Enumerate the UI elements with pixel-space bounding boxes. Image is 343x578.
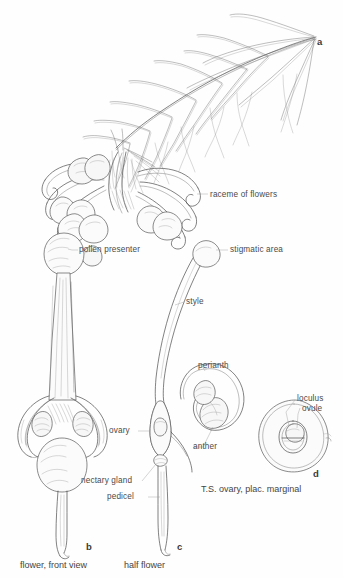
label-style: style bbox=[186, 297, 204, 306]
label-nectary-gland: nectary gland bbox=[81, 476, 132, 485]
label-anther: anther bbox=[193, 442, 217, 451]
botanical-plate: raceme of flowers pollen presenter stigm… bbox=[0, 0, 343, 578]
figure-letter-d: d bbox=[313, 468, 319, 479]
label-ovule: ovule bbox=[302, 404, 322, 413]
label-perianth: perianth bbox=[198, 361, 229, 370]
figure-letter-a: a bbox=[317, 36, 322, 47]
label-pedicel: pedicel bbox=[107, 492, 134, 501]
label-ovary: ovary bbox=[109, 426, 130, 435]
label-loculus: loculus bbox=[297, 394, 324, 403]
label-raceme-of-flowers: raceme of flowers bbox=[210, 190, 277, 199]
label-stigmatic-area: stigmatic area bbox=[230, 245, 283, 254]
caption-half-flower: half flower bbox=[124, 560, 165, 570]
caption-ts-ovary: T.S. ovary, plac. marginal bbox=[201, 484, 301, 494]
figure-c-half-flower-artwork bbox=[150, 241, 244, 556]
figure-letter-b: b bbox=[86, 541, 92, 552]
figure-b-flower-front-artwork bbox=[18, 233, 107, 559]
caption-flower-front-view: flower, front view bbox=[20, 560, 87, 570]
figure-letter-c: c bbox=[177, 541, 182, 552]
label-pollen-presenter: pollen presenter bbox=[79, 245, 140, 254]
